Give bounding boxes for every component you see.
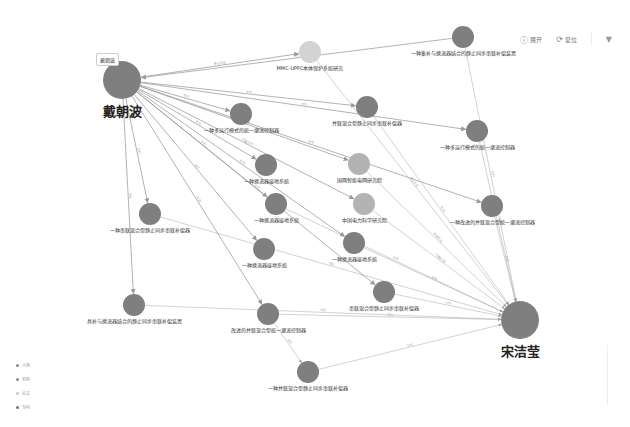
node-label: 一种多运行模式的统一潮流控制器	[204, 126, 279, 133]
node-label: 一种换流器接地系统	[254, 216, 299, 223]
edge-label: 专利	[286, 338, 294, 346]
graph-node[interactable]	[466, 120, 488, 142]
graph-node[interactable]	[353, 193, 375, 215]
node-label: 一种换流器接地系统	[332, 255, 377, 262]
edge-label: 专利	[128, 193, 133, 199]
edge-label: 专利	[194, 162, 202, 170]
circle-info-icon: ⓘ	[520, 34, 528, 45]
node-label: 具补与换流器结合的静止同步串联补偿装置	[87, 317, 182, 324]
graph-node[interactable]	[230, 103, 252, 125]
legend-label: 人物	[22, 362, 30, 368]
legend-dot	[16, 378, 19, 381]
node-label: 国网智能电网研究院	[337, 176, 382, 183]
graph-node[interactable]	[253, 238, 275, 260]
node-label: 一种换流器接地系统	[244, 177, 289, 184]
legend-label: 专利	[22, 404, 30, 410]
node-label: 一种多运行模式的统一潮流控制器	[440, 143, 515, 150]
filter-icon: ▼	[606, 35, 612, 44]
node-label: 改进的并联混合型统一潮流控制器	[231, 326, 306, 333]
graph-node[interactable]	[299, 41, 321, 63]
edge-label: 所属机构	[432, 231, 444, 243]
refresh-icon: ⟳	[556, 35, 563, 44]
graph-node[interactable]	[257, 303, 279, 325]
node-label: 并联混合型静止同步串联补偿器	[332, 119, 402, 126]
graph-node[interactable]	[265, 193, 287, 215]
graph-node[interactable]	[123, 294, 145, 316]
node-label: MMC-UPFC本体保护系统研究	[277, 64, 344, 71]
node-label: 戴朝波	[103, 101, 142, 120]
graph-node[interactable]	[452, 26, 474, 48]
edge-label: 专利	[431, 274, 439, 281]
edge-label: 专利	[196, 195, 203, 203]
graph-node[interactable]	[255, 154, 277, 176]
edge-label: 专利	[439, 205, 447, 213]
expand-button[interactable]: ⓘ 展开	[520, 34, 542, 45]
graph-node[interactable]	[348, 153, 370, 175]
reset-label: 复位	[565, 35, 577, 44]
edge-label: 专利	[320, 307, 326, 312]
toolbar-divider	[591, 32, 592, 46]
legend-item-paper[interactable]: 论文	[16, 386, 30, 400]
graph-toolbar: ⓘ 展开 ⟳ 复位 ▼	[520, 32, 612, 46]
edge-label: 专利	[392, 254, 400, 261]
person-node[interactable]	[501, 301, 539, 339]
legend-label: 论文	[22, 390, 30, 396]
graph-node[interactable]	[297, 361, 319, 383]
edge-layer: 参与项目专利专利专利专利专利所属机构专利所属机构专利专利专利专利专利专利专利专利…	[123, 38, 516, 369]
edge-label: 所属机构	[241, 137, 254, 147]
node-label: 一种改进的并联混合型统一潮流控制器	[450, 218, 535, 225]
graph-node[interactable]	[373, 281, 395, 303]
legend-label: 机构	[22, 376, 30, 382]
graph-node[interactable]	[343, 232, 365, 254]
graph-node[interactable]	[481, 195, 503, 217]
node-layer	[103, 26, 539, 383]
legend: 人物 机构 论文 专利	[16, 358, 30, 414]
legend-dot	[16, 392, 19, 395]
graph-node[interactable]	[356, 96, 378, 118]
expand-label: 展开	[530, 35, 542, 44]
reset-button[interactable]: ⟳ 复位	[556, 35, 577, 44]
filter-button[interactable]: ▼	[606, 35, 612, 44]
node-tooltip: 戴朝波	[96, 53, 119, 66]
edge-label: 专利	[300, 101, 307, 107]
node-label: 一种并联混合型静止同步串联补偿器	[268, 384, 348, 391]
panel-divider	[607, 345, 608, 405]
person-node[interactable]	[103, 61, 141, 99]
legend-item-patent[interactable]: 专利	[16, 400, 30, 414]
node-label: 一种串联混合型静止同步串联补偿器	[110, 226, 190, 233]
node-label: 串联混合型静止同步串联补偿器	[349, 304, 419, 311]
node-label: 宋洁莹	[501, 341, 540, 360]
edge-label: 专利	[387, 312, 393, 317]
edge-label: 专利	[245, 89, 252, 95]
legend-dot	[16, 406, 19, 409]
node-label: 中国电力科学研究院	[342, 216, 387, 223]
edge-label: 专利	[239, 158, 247, 166]
legend-dot	[16, 364, 19, 367]
legend-item-org[interactable]: 机构	[16, 372, 30, 386]
node-label: 一种换流器接地系统	[242, 261, 287, 268]
graph-node[interactable]	[139, 203, 161, 225]
edge-label: 专利	[308, 139, 315, 146]
legend-item-person[interactable]: 人物	[16, 358, 30, 372]
edge-label: 专利	[293, 53, 300, 59]
node-label: 一种集补与换流器结合的静止同步串联补偿装置	[411, 49, 516, 56]
